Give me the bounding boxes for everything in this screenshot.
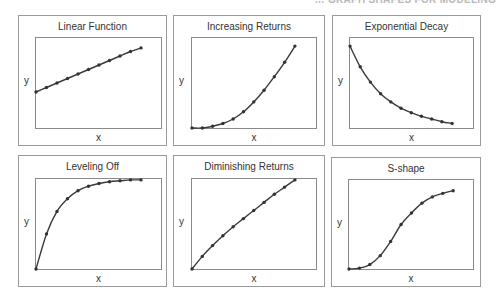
data-point-marker [420, 201, 423, 204]
data-point-marker [293, 178, 296, 181]
curve-series [36, 179, 163, 271]
data-point-marker [221, 234, 224, 237]
data-point-marker [76, 72, 79, 75]
data-point-marker [139, 178, 142, 181]
plot-area [349, 37, 474, 129]
data-point-marker [45, 86, 48, 89]
chart-panel-s-shape: S-shapeyx [331, 157, 481, 287]
curve-line [350, 46, 452, 123]
data-point-marker [221, 122, 224, 125]
y-axis-label: y [24, 75, 29, 86]
x-axis-label: x [35, 132, 162, 143]
data-point-marker [347, 267, 350, 270]
data-point-marker [389, 240, 392, 243]
data-point-marker [359, 65, 362, 68]
data-point-marker [242, 217, 245, 220]
page-header: … GRAPH SHAPES FOR MODELING [315, 0, 496, 5]
data-point-marker [242, 110, 245, 113]
data-point-marker [451, 189, 454, 192]
y-axis-label: y [338, 75, 343, 86]
curve-series [192, 38, 318, 130]
data-point-marker [410, 211, 413, 214]
curve-line [192, 180, 295, 269]
chart-panel-leveling-off: Leveling Offyx [18, 155, 167, 287]
chart-title: Linear Function [19, 21, 166, 32]
data-point-marker [399, 107, 402, 110]
plot-area [35, 178, 162, 270]
data-point-marker [45, 232, 48, 235]
data-point-marker [118, 54, 121, 57]
data-point-marker [231, 225, 234, 228]
data-point-marker [108, 180, 111, 183]
data-point-marker [66, 77, 69, 80]
data-point-marker [283, 185, 286, 188]
data-point-marker [283, 61, 286, 64]
data-point-marker [358, 266, 361, 269]
chart-title: Diminishing Returns [174, 161, 324, 172]
data-point-marker [369, 80, 372, 83]
data-point-marker [273, 75, 276, 78]
chart-title: Increasing Returns [174, 21, 324, 32]
plot-area [348, 179, 474, 270]
data-point-marker [430, 117, 433, 120]
data-point-marker [211, 244, 214, 247]
chart-title: Exponential Decay [333, 21, 480, 32]
data-point-marker [87, 68, 90, 71]
chart-panel-diminishing-returns: Diminishing Returnsyx [173, 155, 325, 287]
x-axis-label: x [349, 132, 474, 143]
data-point-marker [55, 210, 58, 213]
data-point-marker [399, 223, 402, 226]
data-point-marker [252, 100, 255, 103]
curve-series [350, 38, 475, 130]
data-point-marker [389, 100, 392, 103]
chart-panel-linear-function: Linear Functionyx [18, 15, 167, 146]
data-point-marker [252, 209, 255, 212]
data-point-marker [262, 201, 265, 204]
data-point-marker [118, 179, 121, 182]
y-axis-label: y [337, 217, 342, 228]
x-axis-label: x [348, 273, 474, 284]
data-point-marker [87, 185, 90, 188]
plot-area [191, 178, 317, 270]
x-axis-label: x [35, 273, 162, 284]
data-point-marker [441, 192, 444, 195]
curve-series [192, 179, 318, 271]
data-point-marker [440, 120, 443, 123]
data-point-marker [76, 189, 79, 192]
x-axis-label: x [191, 273, 317, 284]
data-point-marker [97, 182, 100, 185]
y-axis-label: y [179, 75, 184, 86]
plot-area [35, 37, 162, 129]
curve-series [36, 38, 163, 130]
curve-line [349, 191, 453, 269]
data-point-marker [410, 111, 413, 114]
y-axis-label: y [179, 216, 184, 227]
data-point-marker [273, 193, 276, 196]
plot-area [191, 37, 317, 129]
data-point-marker [190, 267, 193, 270]
chart-panel-exponential-decay: Exponential Decayyx [332, 15, 481, 146]
chart-panel-increasing-returns: Increasing Returnsyx [173, 15, 325, 146]
data-point-marker [97, 63, 100, 66]
data-point-marker [379, 254, 382, 257]
data-point-marker [34, 90, 37, 93]
x-axis-label: x [191, 132, 317, 143]
chart-title: S-shape [332, 163, 480, 174]
data-point-marker [139, 46, 142, 49]
data-point-marker [231, 117, 234, 120]
curve-line [192, 46, 295, 128]
data-point-marker [431, 195, 434, 198]
data-point-marker [129, 178, 132, 181]
data-point-marker [201, 255, 204, 258]
chart-title: Leveling Off [19, 161, 166, 172]
data-point-marker [262, 89, 265, 92]
curve-series [349, 180, 475, 271]
data-point-marker [420, 115, 423, 118]
data-point-marker [108, 59, 111, 62]
data-point-marker [66, 197, 69, 200]
data-point-marker [379, 92, 382, 95]
y-axis-label: y [24, 216, 29, 227]
data-point-marker [450, 122, 453, 125]
data-point-marker [34, 267, 37, 270]
data-point-marker [293, 44, 296, 47]
